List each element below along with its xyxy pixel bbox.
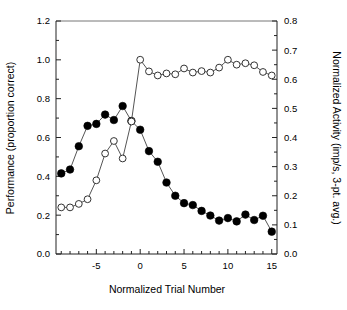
tick-label-bottom: 10 (223, 260, 234, 271)
tick-label-left: 0.8 (37, 93, 50, 104)
data-point (102, 150, 109, 157)
right-axis-tick-labels: 0.00.10.20.30.40.50.60.70.8 (284, 15, 297, 259)
data-point (57, 170, 65, 178)
y-axis-title-right: Normalized Activity (imp/s, 3-pt. avg.) (331, 51, 343, 224)
data-point (251, 62, 258, 69)
data-point (172, 71, 179, 78)
tick-label-left: 0.0 (37, 248, 50, 259)
data-point (84, 122, 92, 130)
data-point (215, 217, 223, 225)
data-point (224, 56, 231, 63)
data-point (163, 179, 171, 187)
data-point (233, 61, 240, 68)
tick-label-right: 0.2 (284, 190, 297, 201)
tick-label-left: 1.2 (37, 15, 50, 26)
data-point (110, 138, 117, 145)
left-axis-tick-labels: 0.00.20.40.60.81.01.2 (37, 15, 50, 259)
x-axis-ticks (61, 249, 271, 254)
data-point (93, 120, 101, 128)
x-axis-title: Normalized Trial Number (109, 283, 226, 295)
data-point (67, 204, 74, 211)
data-point (250, 216, 258, 224)
tick-label-right: 0.8 (284, 15, 297, 26)
data-point (93, 177, 100, 184)
data-point (189, 69, 196, 76)
data-point (128, 118, 135, 125)
data-point (268, 72, 275, 79)
data-point (189, 201, 197, 209)
x-axis-tick-labels: -5051015 (92, 260, 277, 271)
data-point (110, 116, 118, 124)
data-point (259, 212, 267, 220)
data-point (171, 192, 179, 200)
tick-label-bottom: 0 (138, 260, 143, 271)
data-series-layer (57, 56, 275, 235)
series-performance (57, 102, 275, 235)
data-point (101, 111, 109, 119)
plot-frame (56, 21, 277, 254)
tick-label-bottom: 15 (266, 260, 277, 271)
tick-label-right: 0.0 (284, 248, 297, 259)
data-point (145, 147, 153, 155)
data-point (268, 228, 276, 236)
data-point (242, 211, 250, 219)
right-axis-ticks (272, 21, 277, 254)
series-activity (58, 56, 275, 210)
tick-label-left: 0.6 (37, 132, 50, 143)
data-point (242, 60, 249, 67)
data-point (207, 212, 215, 220)
data-point (180, 199, 188, 207)
data-point (198, 68, 205, 75)
tick-label-right: 0.7 (284, 45, 297, 56)
data-point (181, 65, 188, 72)
data-point (146, 68, 153, 75)
data-point (119, 102, 127, 110)
data-point (136, 126, 144, 134)
line-chart-svg: 0.00.20.40.60.81.01.2 0.00.10.20.30.40.5… (0, 0, 347, 310)
data-point (75, 142, 83, 150)
data-point (154, 158, 162, 166)
tick-label-right: 0.1 (284, 219, 297, 230)
data-point (84, 196, 91, 203)
data-point (137, 56, 144, 63)
data-point (260, 69, 267, 76)
data-point (207, 69, 214, 76)
tick-label-bottom: -5 (92, 260, 100, 271)
data-point (58, 204, 65, 211)
tick-label-left: 0.4 (37, 171, 50, 182)
chart-figure: 0.00.20.40.60.81.01.2 0.00.10.20.30.40.5… (0, 0, 347, 310)
data-point (66, 166, 74, 174)
tick-label-left: 1.0 (37, 54, 50, 65)
data-point (119, 155, 126, 162)
tick-label-right: 0.3 (284, 161, 297, 172)
data-point (154, 72, 161, 79)
tick-label-right: 0.4 (284, 132, 297, 143)
data-point (163, 70, 170, 77)
data-point (198, 207, 206, 215)
data-point (224, 214, 232, 222)
y-axis-title-left: Performance (proportion correct) (4, 62, 16, 214)
data-point (75, 201, 82, 208)
tick-label-bottom: 5 (181, 260, 186, 271)
tick-label-left: 0.2 (37, 210, 50, 221)
data-point (233, 218, 241, 226)
tick-label-right: 0.5 (284, 103, 297, 114)
left-axis-ticks (56, 21, 61, 254)
tick-label-right: 0.6 (284, 74, 297, 85)
data-point (216, 64, 223, 71)
